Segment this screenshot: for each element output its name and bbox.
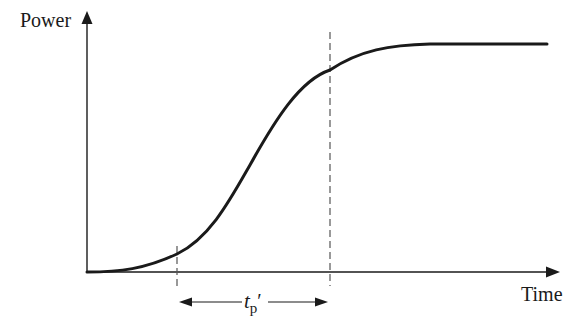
y-axis-arrow-icon [82, 11, 93, 24]
y-axis-label: Power [20, 9, 71, 31]
x-axis-label: Time [521, 283, 563, 305]
power-curve [87, 44, 547, 272]
arrow-left-icon [179, 298, 192, 307]
x-axis [87, 267, 560, 278]
interval-label-prime: ′ [257, 290, 261, 312]
x-axis-arrow-icon [546, 267, 560, 278]
y-axis [82, 11, 93, 272]
interval-label: tp′ [244, 289, 262, 316]
power-time-diagram: Power Time tp′ [0, 0, 573, 323]
interval-label-subscript: p [250, 300, 258, 316]
arrow-right-icon [315, 298, 328, 307]
